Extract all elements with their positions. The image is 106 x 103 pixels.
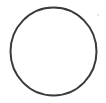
drawing-canvas (0, 0, 106, 103)
circle-outline-shape (11, 8, 97, 96)
circle-figure (0, 0, 106, 103)
